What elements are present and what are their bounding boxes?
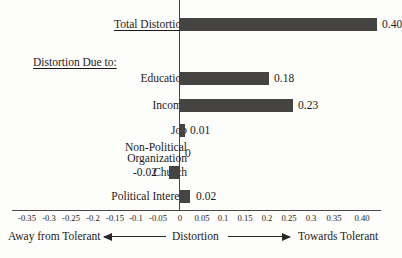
bar-income [180,99,293,112]
group-heading-distortion-due-to: Distortion Due to: [33,56,117,68]
annotation-away-from-tolerant: Away from Tolerant [8,229,100,244]
x-tick-0.2: 0.2 [262,212,273,224]
x-tick-0.1: 0.1 [218,212,229,224]
chart-row-income: Income 0.23 [0,99,393,119]
annotation-distortion: Distortion [172,229,219,244]
chart-row-total-distortion: Total Distortion 0.40 [0,18,393,38]
value-label-education: 0.18 [274,72,294,85]
x-tick-0.15: 0.15 [237,212,252,224]
x-tick--0.35: -0.35 [18,212,36,224]
x-tick-0.40: 0.40 [354,212,369,224]
chart-row-education: Education 0.18 [0,72,393,92]
x-tick--0.25: -0.25 [62,212,80,224]
x-tick-0.25: 0.25 [281,212,296,224]
x-tick--0.05: -0.05 [149,212,167,224]
value-label-total-distortion: 0.40 [382,18,402,31]
arrow-left-icon [104,236,166,237]
bar-political-interest [180,190,190,203]
value-label-church: -0.02 [133,166,157,179]
chart-row-church: Church -0.02 [0,166,393,186]
x-tick-0.35: 0.35 [326,212,341,224]
x-tick-0.3: 0.3 [306,212,317,224]
x-tick--0.3: -0.3 [42,212,56,224]
x-tick--0.15: -0.15 [106,212,124,224]
x-tick-0.05: 0.05 [194,212,209,224]
x-axis-line [12,210,381,211]
plot-area: Total Distortion 0.40 Distortion Due to:… [0,0,393,212]
value-label-income: 0.23 [298,99,318,112]
x-axis-tick-labels: -0.35 -0.3 -0.25 -0.2 -0.15 -0.1 -0.05 0… [0,212,393,226]
bar-total-distortion [180,18,377,31]
category-label-total-distortion: Total Distortion [114,18,187,30]
x-tick--0.2: -0.2 [86,212,100,224]
chart-row-political-interest: Political Interest 0.02 [0,190,393,210]
x-tick--0.1: -0.1 [129,212,143,224]
chart-row-job: Job 0.01 [0,124,393,144]
value-label-non-political-organization: 0 [185,147,191,160]
annotation-towards-tolerant: Towards Tolerant [298,229,378,244]
bar-job [180,124,185,137]
chart-row-non-political-organization: Non-Political Organization 0 [0,142,393,162]
axis-direction-annotation: Away from Tolerant Distortion Towards To… [0,229,393,249]
bar-church [169,166,180,179]
x-tick-0: 0 [178,212,182,224]
category-label-non-political-organization: Non-Political Organization [67,142,187,164]
category-label-political-interest: Political Interest [111,190,187,202]
value-label-political-interest: 0.02 [196,190,216,203]
value-label-job: 0.01 [190,124,210,137]
bar-education [180,72,269,85]
arrow-right-icon [228,236,290,237]
